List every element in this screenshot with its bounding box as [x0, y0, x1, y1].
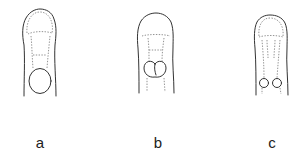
panel-b-outer-outline: [137, 13, 174, 93]
panel-b-label: b: [154, 135, 162, 150]
panel-b-drawing: [137, 13, 174, 93]
panel-a-transverse-line: [28, 32, 52, 34]
panel-c-basal-circle-right: [273, 79, 282, 88]
panel-c-basal-circle-left: [260, 79, 269, 88]
panel-c-wall-right: [277, 40, 280, 78]
panel-b-neck-left: [148, 38, 149, 62]
panel-a-neck-right: [47, 36, 50, 68]
panel-b-transverse-line: [142, 35, 170, 37]
panel-a-neck-left: [31, 36, 33, 68]
panel-c-wall-right-lower: [280, 88, 281, 94]
panel-a-label: a: [36, 135, 44, 150]
panel-c-wall-left: [262, 40, 264, 78]
panel-c-drawing: [254, 15, 288, 95]
panel-b-wall-right-lower: [164, 78, 165, 92]
panel-b-neck-right: [162, 38, 164, 62]
panel-c-inner-right: [274, 40, 275, 58]
panel-c-inner-left: [267, 40, 268, 58]
panel-c-dome-inner: [259, 18, 283, 36]
panel-a-basal-circle: [29, 69, 51, 94]
diagram-canvas: [0, 0, 298, 159]
panel-b-lobe-divider: [155, 64, 156, 75]
panel-c-label: c: [268, 135, 276, 150]
panel-c-transverse-line: [259, 36, 283, 38]
panel-a-dome-inner: [27, 12, 53, 33]
panel-a-drawing: [23, 9, 56, 96]
